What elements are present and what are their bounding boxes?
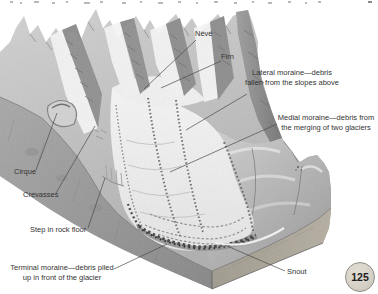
label-lateral-moraine: Lateral moraine—debris fallen from the s… [236,68,348,87]
label-terminal-moraine: Terminal moraine—debris piled up in fron… [8,263,116,282]
label-snout: Snout [287,267,307,277]
label-medial-moraine-line1: Medial moraine—debris from [276,113,376,123]
label-cirque: Cirque [14,167,36,177]
label-lateral-moraine-line1: Lateral moraine—debris [236,68,348,78]
terrain [0,0,378,294]
label-crevasses: Crevasses [23,190,58,200]
page-number: 125 [351,271,369,283]
label-medial-moraine: Medial moraine—debris from the merging o… [276,113,376,132]
label-step-in-rock-floor: Step in rock floor [30,225,86,235]
label-lateral-moraine-line2: fallen from the slopes above [236,78,348,88]
glacier-block-diagram-illustration [0,0,378,294]
book-page: Névé Firn Lateral moraine—debris fallen … [0,0,378,294]
label-firn: Firn [221,52,234,62]
page-number-badge: 125 [345,262,375,292]
label-neve: Névé [195,29,213,39]
label-terminal-moraine-line1: Terminal moraine—debris piled [8,263,116,273]
cropped-text-fragments [10,2,372,3]
label-medial-moraine-line2: the merging of two glaciers [276,123,376,133]
label-terminal-moraine-line2: up in front of the glacier [8,273,116,283]
